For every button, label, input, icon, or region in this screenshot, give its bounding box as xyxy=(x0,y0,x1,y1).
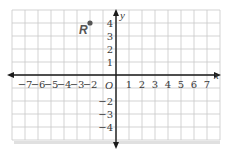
y-axis-label: y xyxy=(119,9,125,21)
x-tick-label: 6 xyxy=(191,79,197,90)
x-tick-label: 4 xyxy=(165,79,171,90)
x-tick-label: 5 xyxy=(178,79,184,90)
y-tick-label: −3 xyxy=(98,109,113,120)
coordinate-plane: −7−6−5−4−3−21234567 4321−2−3−4 x y O R xyxy=(0,0,227,156)
x-axis-label: x xyxy=(213,69,219,81)
x-axis-left-arrow-icon xyxy=(7,72,14,78)
y-tick-label: −2 xyxy=(98,96,113,107)
x-tick-label: 3 xyxy=(152,79,158,90)
y-tick-label: 3 xyxy=(107,31,113,42)
y-tick-label: −4 xyxy=(98,122,113,133)
points: R xyxy=(79,20,93,37)
x-tick-label: −2 xyxy=(83,79,98,90)
point-marker xyxy=(87,20,92,25)
point-label: R xyxy=(79,23,88,37)
y-tick-label: 2 xyxy=(107,44,113,55)
x-tick-label: 2 xyxy=(139,79,145,90)
origin-label: O xyxy=(105,79,113,91)
y-axis-down-arrow-icon xyxy=(113,142,119,149)
x-tick-label: 7 xyxy=(204,79,210,90)
y-tick-label: 1 xyxy=(107,57,113,68)
y-tick-label: 4 xyxy=(107,18,113,29)
x-tick-label: 1 xyxy=(126,79,132,90)
